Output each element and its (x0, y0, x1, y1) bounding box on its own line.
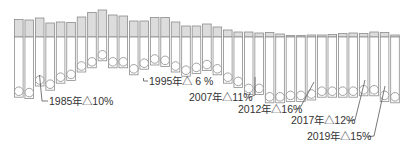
marker-circle (182, 66, 191, 75)
bar-2001 (203, 24, 212, 71)
marker-circle (338, 87, 347, 96)
bar-1989 (77, 17, 86, 72)
bar-1991 (98, 10, 107, 61)
marker-circle (46, 80, 55, 89)
marker-circle (88, 58, 97, 67)
bar-2004 (234, 32, 243, 87)
bar-2014 (338, 34, 347, 98)
bar-1999 (182, 26, 191, 76)
marker-circle (192, 63, 201, 72)
upper-bar (161, 18, 170, 38)
upper-bar (213, 27, 222, 37)
bars-group (14, 10, 399, 103)
marker-circle (255, 84, 264, 93)
bar-1986 (46, 23, 55, 90)
upper-bar (234, 32, 243, 37)
upper-bar (46, 23, 55, 37)
marker-circle (14, 87, 23, 96)
upper-bar (255, 33, 264, 37)
bar-2005 (244, 32, 253, 94)
upper-bar (77, 17, 86, 37)
bar-1988 (67, 23, 76, 81)
bar-2000 (192, 26, 201, 73)
bar-1984 (25, 20, 34, 99)
bar-2010 (297, 36, 306, 102)
upper-bar (203, 24, 212, 37)
annotation-1985: 1985年△10% (49, 95, 113, 107)
upper-bar (182, 26, 191, 37)
marker-circle (224, 73, 233, 82)
bar-2003 (224, 30, 233, 83)
marker-circle (328, 87, 337, 96)
annotation-2019: 2019年△15% (307, 130, 371, 142)
upper-bar (56, 22, 65, 37)
upper-bar (119, 16, 128, 37)
leader-1995 (144, 78, 149, 81)
upper-bar (67, 23, 76, 38)
marker-circle (109, 58, 118, 67)
upper-bar (109, 15, 118, 37)
upper-bar (129, 21, 138, 37)
bar-1998 (171, 22, 180, 72)
upper-bar (15, 20, 24, 38)
marker-circle (150, 55, 159, 64)
bar-1987 (56, 22, 65, 83)
marker-circle (349, 87, 358, 96)
bar-1993 (119, 16, 128, 68)
upper-bar (265, 33, 274, 38)
marker-circle (25, 88, 34, 97)
marker-circle (276, 93, 285, 102)
marker-circle (129, 65, 138, 74)
bar-2018 (380, 33, 389, 102)
marker-circle (370, 86, 379, 95)
bar-2002 (213, 27, 222, 75)
upper-bar (140, 21, 149, 37)
annotation-1995: 1995年△ 6 % (149, 75, 213, 87)
bar-2006 (255, 33, 264, 94)
marker-circle (213, 65, 222, 74)
bar-2019 (391, 35, 400, 103)
marker-circle (171, 62, 180, 71)
marker-circle (380, 91, 389, 100)
marker-circle (77, 62, 86, 71)
marker-circle (265, 93, 274, 102)
marker-circle (234, 77, 243, 86)
marker-circle (318, 87, 327, 96)
marker-circle (391, 93, 400, 102)
bar-2017 (370, 32, 379, 96)
bar-1995 (140, 21, 149, 69)
bar-2008 (276, 34, 285, 103)
bar-2009 (286, 36, 295, 102)
upper-bar (171, 22, 180, 37)
bar-2007 (265, 33, 274, 103)
bar-1996 (150, 18, 159, 66)
bar-1997 (161, 18, 170, 67)
upper-bar (88, 13, 97, 38)
annotation-2017: 2017年△12% (291, 114, 355, 126)
bar-2011 (307, 35, 316, 100)
upper-bar (380, 33, 389, 38)
bar-1994 (129, 21, 138, 75)
upper-bar (349, 33, 358, 37)
marker-circle (98, 51, 107, 60)
marker-circle (56, 73, 65, 82)
upper-bar (370, 32, 379, 37)
upper-bar (35, 18, 44, 37)
upper-bar (244, 32, 253, 37)
upper-bar (192, 26, 201, 37)
bar-2015 (349, 33, 358, 97)
bar-1983 (14, 20, 23, 98)
marker-circle (67, 70, 76, 79)
annotation-2007: 2007年△11% (189, 91, 253, 103)
upper-bar (25, 20, 34, 37)
marker-circle (297, 91, 306, 100)
bar-1992 (109, 15, 118, 68)
upper-bar (98, 10, 107, 37)
marker-circle (140, 59, 149, 68)
marker-circle (203, 60, 212, 69)
bar-2013 (328, 35, 337, 98)
marker-circle (119, 58, 128, 67)
bar-1990 (88, 13, 97, 68)
upper-bar (224, 30, 233, 37)
bar-2012 (318, 35, 327, 97)
